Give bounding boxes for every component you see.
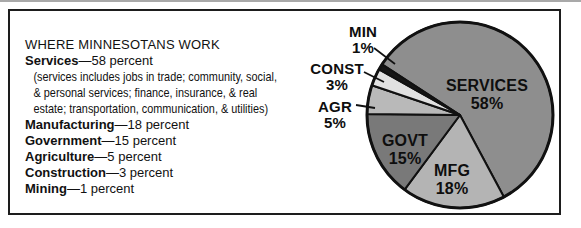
- pie-label-mfg: MFG: [434, 162, 470, 179]
- pie-label-const: CONST: [310, 60, 364, 77]
- pie-chart: SERVICES58%MFG18%GOVT15%AGR5%CONST3%MIN1…: [0, 0, 581, 228]
- pie-label-govt: GOVT: [382, 132, 428, 149]
- pie-label-services: SERVICES: [446, 77, 528, 94]
- pie-label-agr: AGR: [318, 98, 352, 115]
- pie-label-services-pct: 58%: [471, 95, 504, 112]
- pie-label-govt-pct: 15%: [389, 150, 422, 167]
- pie-label-const-pct: 3%: [326, 76, 348, 93]
- pie-label-min: MIN: [349, 23, 377, 40]
- pie-label-agr-pct: 5%: [324, 114, 346, 131]
- pie-label-mfg-pct: 18%: [436, 180, 469, 197]
- pie-label-min-pct: 1%: [352, 39, 374, 56]
